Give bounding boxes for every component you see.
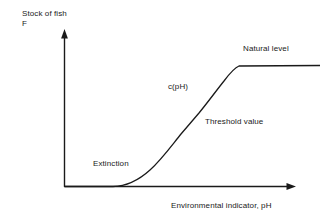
annotation-curve-name: c(pH) — [168, 82, 188, 92]
y-axis-arrowhead — [61, 29, 68, 39]
plot-svg — [0, 0, 320, 218]
annotation-threshold-value: Threshold value — [205, 117, 263, 127]
y-axis-label: Stock of fishF — [22, 9, 67, 29]
figure-canvas: Stock of fishF Environmental indicator, … — [0, 0, 320, 218]
annotation-natural-level: Natural level — [243, 44, 289, 54]
x-axis-label: Environmental indicator, pH — [171, 201, 272, 211]
y-axis-label-line1: Stock of fish — [22, 9, 67, 18]
annotation-extinction: Extinction — [93, 159, 129, 169]
x-axis-arrowhead — [287, 183, 297, 190]
y-axis-label-line2: F — [22, 19, 27, 28]
